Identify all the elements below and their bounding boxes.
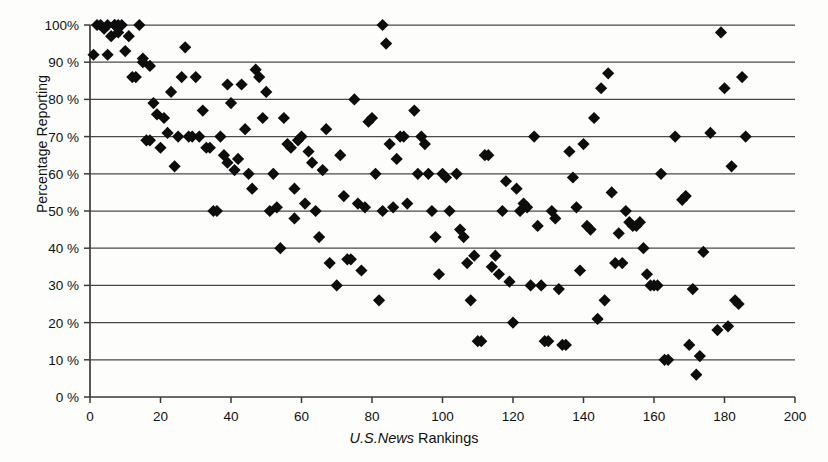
- data-point: [602, 67, 614, 79]
- data-point: [655, 168, 667, 180]
- data-point: [641, 268, 653, 280]
- data-point: [176, 71, 188, 83]
- data-point: [422, 168, 434, 180]
- data-point: [451, 168, 463, 180]
- x-tick-label-40: 40: [223, 409, 238, 424]
- data-point: [429, 231, 441, 243]
- chart-canvas: 020406080100120140160180200 0 %10 %20 %3…: [0, 0, 828, 462]
- x-tick-label-60: 60: [294, 409, 309, 424]
- data-point: [535, 279, 547, 291]
- x-tick-label-0: 0: [86, 409, 94, 424]
- data-point: [433, 268, 445, 280]
- data-point: [690, 369, 702, 381]
- data-point: [302, 145, 314, 157]
- data-point: [274, 242, 286, 254]
- data-point: [257, 112, 269, 124]
- data-point: [235, 78, 247, 90]
- data-point: [426, 205, 438, 217]
- data-point: [599, 294, 611, 306]
- data-point: [637, 242, 649, 254]
- x-tick-label-120: 120: [502, 409, 525, 424]
- y-tick-label-90: 90 %: [48, 55, 79, 70]
- data-point: [306, 157, 318, 169]
- data-point: [243, 168, 255, 180]
- data-point: [563, 145, 575, 157]
- data-point: [169, 160, 181, 172]
- data-point: [588, 112, 600, 124]
- data-point: [197, 104, 209, 116]
- data-point: [740, 131, 752, 143]
- x-tick-label-100: 100: [431, 409, 454, 424]
- data-point: [391, 153, 403, 165]
- data-point: [711, 324, 723, 336]
- data-point: [376, 19, 388, 31]
- data-point: [221, 78, 233, 90]
- y-tick-label-20: 20 %: [48, 316, 79, 331]
- data-point: [380, 38, 392, 50]
- data-point: [172, 131, 184, 143]
- data-point: [278, 112, 290, 124]
- data-point: [133, 19, 145, 31]
- data-point: [606, 186, 618, 198]
- data-point: [613, 227, 625, 239]
- x-axis-ticks: [90, 397, 795, 403]
- x-axis-title-source: U.S.News: [350, 430, 414, 446]
- data-point: [239, 123, 251, 135]
- data-point: [123, 30, 135, 42]
- data-point: [331, 279, 343, 291]
- y-axis-title: Percentage Reporting: [34, 54, 50, 234]
- y-axis-ticks: [84, 25, 90, 397]
- data-point: [532, 220, 544, 232]
- data-point: [725, 160, 737, 172]
- data-point: [232, 153, 244, 165]
- data-point: [190, 71, 202, 83]
- data-point: [165, 86, 177, 98]
- data-point: [683, 339, 695, 351]
- data-point: [373, 294, 385, 306]
- data-point: [288, 212, 300, 224]
- data-point: [320, 123, 332, 135]
- data-point: [246, 183, 258, 195]
- scatter-plot-figure: 020406080100120140160180200 0 %10 %20 %3…: [0, 0, 828, 462]
- data-point: [669, 131, 681, 143]
- data-points: [87, 19, 751, 381]
- data-point: [384, 138, 396, 150]
- y-tick-label-30: 30 %: [48, 278, 79, 293]
- data-point: [718, 82, 730, 94]
- y-tick-label-80: 80 %: [48, 92, 79, 107]
- data-point: [528, 131, 540, 143]
- x-tick-label-80: 80: [364, 409, 379, 424]
- data-point: [577, 138, 589, 150]
- data-point: [288, 183, 300, 195]
- data-point: [355, 264, 367, 276]
- data-point: [214, 131, 226, 143]
- data-point: [179, 41, 191, 53]
- y-tick-label-10: 10 %: [48, 353, 79, 368]
- data-point: [620, 205, 632, 217]
- data-point: [334, 149, 346, 161]
- data-point: [154, 142, 166, 154]
- y-tick-label-50: 50 %: [48, 204, 79, 219]
- data-point: [465, 294, 477, 306]
- data-point: [616, 257, 628, 269]
- x-axis-title-rest: Rankings: [414, 430, 478, 446]
- x-tick-labels: 020406080100120140160180200: [86, 409, 806, 424]
- data-point: [574, 264, 586, 276]
- data-point: [348, 93, 360, 105]
- y-tick-label-60: 60 %: [48, 167, 79, 182]
- data-point: [595, 82, 607, 94]
- data-point: [338, 190, 350, 202]
- x-tick-label-140: 140: [572, 409, 595, 424]
- y-tick-label-100: 100%: [44, 18, 79, 33]
- y-tick-label-70: 70 %: [48, 130, 79, 145]
- data-point: [267, 168, 279, 180]
- data-point: [500, 175, 512, 187]
- data-point: [369, 168, 381, 180]
- data-point: [119, 45, 131, 57]
- data-point: [299, 197, 311, 209]
- data-point: [324, 257, 336, 269]
- data-point: [525, 279, 537, 291]
- data-point: [489, 250, 501, 262]
- data-point: [507, 317, 519, 329]
- x-axis-title: U.S.News Rankings: [0, 430, 828, 446]
